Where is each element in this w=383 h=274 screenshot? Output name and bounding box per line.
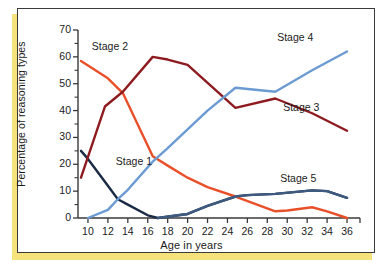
y-tick-label: 60 xyxy=(45,50,71,62)
x-tick-label: 36 xyxy=(336,225,358,237)
y-tick-label: 50 xyxy=(45,77,71,89)
series-label-stage-1: Stage 1 xyxy=(116,155,152,167)
y-tick-label: 20 xyxy=(45,157,71,169)
series-label-stage-3: Stage 3 xyxy=(283,101,319,113)
x-tick-label: 12 xyxy=(97,225,119,237)
series-line-stage-2 xyxy=(81,61,347,218)
series-line-stage-5 xyxy=(158,190,347,218)
y-tick-label: 30 xyxy=(45,130,71,142)
x-tick-label: 24 xyxy=(216,225,238,237)
x-axis-title: Age in years xyxy=(0,239,383,251)
x-tick-label: 16 xyxy=(137,225,159,237)
x-tick-label: 10 xyxy=(77,225,99,237)
x-tick-label: 28 xyxy=(256,225,278,237)
y-axis-title: Percentage of reasoning types xyxy=(15,19,27,209)
x-tick-label: 32 xyxy=(296,225,318,237)
y-tick-label: 10 xyxy=(45,184,71,196)
series-line-stage-4 xyxy=(88,51,347,218)
series-label-stage-4: Stage 4 xyxy=(277,31,313,43)
x-tick-label: 22 xyxy=(197,225,219,237)
y-tick-label: 70 xyxy=(45,23,71,35)
x-tick-label: 14 xyxy=(117,225,139,237)
series-label-stage-5: Stage 5 xyxy=(280,172,316,184)
y-tick-label: 0 xyxy=(45,211,71,223)
series-label-stage-2: Stage 2 xyxy=(92,40,128,52)
x-tick-label: 34 xyxy=(316,225,338,237)
x-tick-label: 20 xyxy=(177,225,199,237)
x-tick-label: 26 xyxy=(236,225,258,237)
y-tick-label: 40 xyxy=(45,104,71,116)
chart-figure: Age in years Percentage of reasoning typ… xyxy=(0,0,383,274)
x-tick-label: 30 xyxy=(276,225,298,237)
x-tick-label: 18 xyxy=(157,225,179,237)
